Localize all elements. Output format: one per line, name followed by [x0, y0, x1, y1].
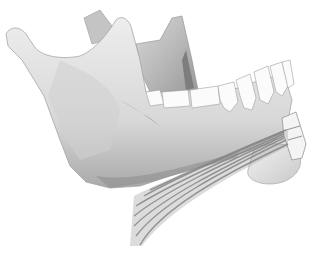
illustration-canvas	[0, 0, 320, 253]
mandible-illustration	[0, 0, 320, 253]
